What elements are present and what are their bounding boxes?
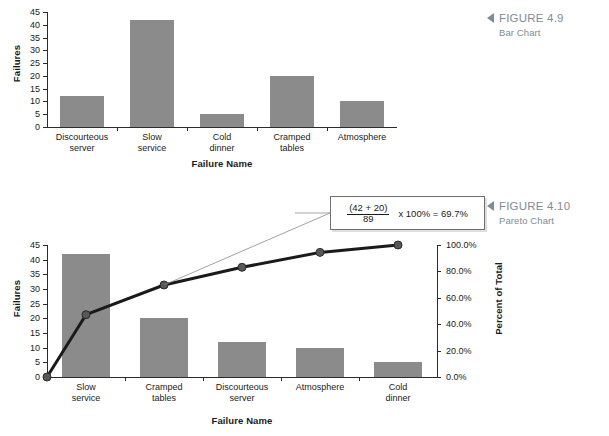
category-label: Slow service	[47, 382, 125, 404]
figure-4-9-title: FIGURE 4.9	[499, 12, 564, 24]
category-label: Cramped tables	[257, 132, 327, 154]
bar	[130, 20, 173, 127]
secondary-y-tick-label: 0.0%	[446, 372, 467, 382]
y-tick	[43, 101, 47, 102]
figure-4-10-title: FIGURE 4.10	[499, 200, 570, 212]
triangle-left-icon	[487, 13, 494, 23]
y-tick-label: 10	[0, 343, 40, 353]
y-tick-label: 5	[0, 357, 40, 367]
x-tick	[327, 127, 328, 131]
secondary-y-tick	[437, 298, 441, 299]
triangle-left-icon	[487, 201, 494, 211]
secondary-y-tick	[437, 351, 441, 352]
pareto-chart-secondary-y-axis	[437, 245, 438, 378]
pareto-cumulative-line	[47, 245, 437, 378]
y-tick	[43, 89, 47, 90]
category-label: Atmosphere	[281, 382, 359, 393]
secondary-y-tick-label: 60.0%	[446, 293, 472, 303]
category-label: Discourteous server	[47, 132, 117, 154]
category-label: Cold dinner	[187, 132, 257, 154]
y-tick	[43, 12, 47, 13]
y-tick-label: 40	[0, 255, 40, 265]
y-tick-label: 40	[0, 20, 40, 30]
category-label: Atmosphere	[327, 132, 397, 143]
category-label: Cold dinner	[359, 382, 437, 404]
pareto-chart-x-axis-title: Failure Name	[47, 415, 437, 426]
y-tick	[43, 76, 47, 77]
category-label: Cramped tables	[125, 382, 203, 404]
y-tick-label: 25	[0, 299, 40, 309]
y-tick	[43, 25, 47, 26]
category-label: Slow service	[117, 132, 187, 154]
bar-chart-x-axis-title: Failure Name	[47, 158, 397, 169]
y-tick-label: 25	[0, 58, 40, 68]
annotation-fraction: (42 + 20) 89	[347, 202, 389, 224]
data-point-marker	[316, 248, 324, 256]
bar	[340, 101, 383, 127]
category-label: Discourteous server	[203, 382, 281, 404]
x-tick	[257, 127, 258, 131]
bar-chart-y-axis	[47, 12, 48, 128]
figure-4-10-caption: FIGURE 4.10 Pareto Chart	[487, 196, 605, 226]
secondary-y-tick-label: 40.0%	[446, 319, 472, 329]
secondary-y-tick	[437, 245, 441, 246]
y-tick-label: 30	[0, 45, 40, 55]
y-tick-label: 20	[0, 313, 40, 323]
figure-4-9-subtitle: Bar Chart	[499, 27, 605, 38]
y-tick-label: 5	[0, 109, 40, 119]
annotation-result: x 100% = 69.7%	[398, 208, 467, 219]
y-tick-label: 35	[0, 269, 40, 279]
y-tick-label: 0	[0, 372, 40, 382]
y-tick-label: 15	[0, 84, 40, 94]
figure-4-10-subtitle: Pareto Chart	[499, 215, 605, 226]
y-tick-label: 45	[0, 7, 40, 17]
secondary-y-tick	[437, 271, 441, 272]
bar-chart-x-axis	[47, 127, 397, 128]
data-point-marker	[238, 263, 246, 271]
bar	[60, 96, 103, 127]
bar	[270, 76, 313, 127]
y-tick-label: 20	[0, 71, 40, 81]
annotation-denominator: 89	[363, 212, 374, 224]
y-tick-label: 35	[0, 33, 40, 43]
secondary-y-tick	[437, 324, 441, 325]
y-tick	[43, 38, 47, 39]
figure-4-9-caption: FIGURE 4.9 Bar Chart	[487, 8, 605, 38]
y-tick-label: 30	[0, 284, 40, 294]
secondary-y-tick-label: 20.0%	[446, 346, 472, 356]
pareto-chart-secondary-y-axis-title: Percent of Total	[493, 259, 504, 339]
y-tick-label: 10	[0, 96, 40, 106]
y-tick	[43, 114, 47, 115]
secondary-y-tick-label: 100.0%	[446, 240, 477, 250]
secondary-y-tick	[437, 377, 441, 378]
y-tick-label: 15	[0, 328, 40, 338]
data-point-marker	[82, 311, 90, 319]
x-tick	[117, 127, 118, 131]
data-point-marker	[43, 373, 51, 381]
pareto-chart-plot-area: 051015202530354045 0.0%20.0%40.0%60.0%80…	[47, 245, 437, 377]
y-tick	[43, 50, 47, 51]
y-tick	[43, 63, 47, 64]
y-tick-label: 0	[0, 122, 40, 132]
bar	[200, 114, 243, 127]
secondary-y-tick-label: 80.0%	[446, 266, 472, 276]
y-tick-label: 45	[0, 240, 40, 250]
data-point-marker	[160, 281, 168, 289]
y-tick	[43, 127, 47, 128]
data-point-marker	[394, 241, 402, 249]
figure-4-9-bar-chart: Failures 051015202530354045 Discourteous…	[0, 0, 430, 175]
x-tick	[187, 127, 188, 131]
cumulative-percent-line	[47, 245, 398, 377]
bar-chart-plot-area: 051015202530354045	[47, 12, 397, 127]
pareto-annotation-callout: (42 + 20) 89 x 100% = 69.7%	[330, 196, 485, 230]
